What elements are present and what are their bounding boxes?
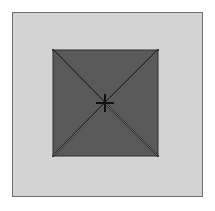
pyramid-diagram	[0, 0, 215, 211]
